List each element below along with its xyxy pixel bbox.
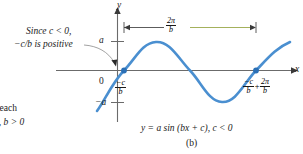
period-arrow-right-head — [250, 25, 256, 30]
period-label: 2π b — [166, 17, 176, 34]
first-intercept-fraction: −c b — [115, 79, 126, 96]
x-intercept-label-first: −c b — [115, 79, 126, 96]
period-fraction: 2π b — [166, 17, 176, 34]
x-intercept-point-first — [121, 68, 127, 74]
y-tick-label-negative-a: −a — [95, 97, 106, 107]
annotation-line-1: Since c < 0, — [26, 26, 71, 36]
annotation-leader-line — [84, 45, 114, 62]
figure-caption: (b) — [186, 138, 197, 148]
annotation-line-2: −c/b is positive — [14, 39, 73, 49]
y-tick-label-a: a — [99, 35, 104, 45]
second-intercept-fraction-2: 2π b — [260, 78, 270, 95]
origin-label: 0 — [99, 76, 104, 86]
equation-label: y = a sin (bx + c), c < 0 — [141, 123, 233, 133]
period-denominator: b — [166, 25, 176, 34]
x-intercept-point-second — [253, 68, 259, 74]
x-axis-label: x — [295, 64, 299, 74]
second-intercept-denominator-2: b — [260, 86, 270, 95]
second-intercept-numerator-2: 2π — [260, 78, 270, 86]
x-intercept-label-second: −c b + 2π b — [243, 78, 270, 95]
period-numerator: 2π — [166, 17, 176, 25]
first-intercept-numerator: −c — [115, 79, 126, 87]
annotation-leader-arrowhead — [111, 59, 117, 66]
margin-text-line-2: 0, b > 0 — [0, 117, 24, 127]
period-arrow-left-head — [124, 25, 130, 30]
first-intercept-denominator: b — [115, 87, 126, 96]
second-intercept-fraction-1: −c b — [243, 78, 254, 95]
y-axis-label: y — [117, 0, 121, 10]
second-intercept-numerator-1: −c — [243, 78, 254, 86]
margin-text-line-1: r each — [0, 103, 17, 113]
second-intercept-denominator-1: b — [243, 86, 254, 95]
